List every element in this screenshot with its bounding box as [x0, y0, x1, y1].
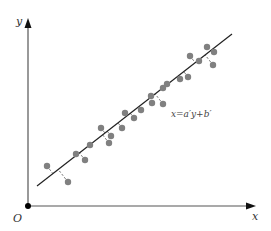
- data-point: [210, 62, 216, 68]
- data-point: [119, 125, 125, 131]
- data-point: [160, 101, 166, 107]
- data-point: [204, 44, 210, 50]
- data-point: [138, 107, 144, 113]
- data-point: [65, 179, 71, 185]
- data-point: [185, 74, 191, 80]
- data-point: [131, 115, 137, 121]
- data-point: [196, 58, 202, 64]
- equation-label: x=a′y+b′: [171, 110, 211, 119]
- y-axis-arrow-icon: [25, 18, 32, 28]
- data-point: [108, 133, 114, 139]
- data-point: [122, 110, 128, 116]
- data-point: [177, 76, 183, 82]
- data-point: [187, 53, 193, 59]
- regression-diagram: [0, 0, 271, 231]
- data-point: [149, 100, 155, 106]
- data-point: [98, 125, 104, 131]
- y-axis-label: y: [16, 16, 22, 27]
- data-point: [73, 151, 79, 157]
- data-point: [87, 142, 93, 148]
- x-axis-label: x: [252, 211, 258, 222]
- data-point: [164, 81, 170, 87]
- x-axis-arrow-icon: [246, 203, 256, 210]
- origin-label: O: [13, 213, 22, 224]
- origin-dot: [25, 203, 31, 209]
- data-point: [44, 163, 50, 169]
- axes: [25, 18, 257, 210]
- data-point: [106, 140, 112, 146]
- data-point: [82, 157, 88, 163]
- data-point: [148, 93, 154, 99]
- data-point: [211, 49, 217, 55]
